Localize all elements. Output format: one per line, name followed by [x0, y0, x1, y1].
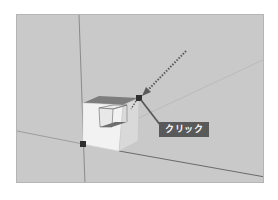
- click-callout-label: クリック: [159, 122, 209, 137]
- red-axis-left: [17, 131, 83, 144]
- snap-point-icon[interactable]: [80, 141, 86, 147]
- 3d-viewport[interactable]: [16, 14, 264, 183]
- dotted-move-line: [147, 51, 186, 91]
- scene-drawing: [17, 15, 264, 183]
- callout-leader-line: [141, 100, 161, 126]
- vertical-axis: [79, 15, 85, 183]
- red-axis-right: [119, 151, 264, 177]
